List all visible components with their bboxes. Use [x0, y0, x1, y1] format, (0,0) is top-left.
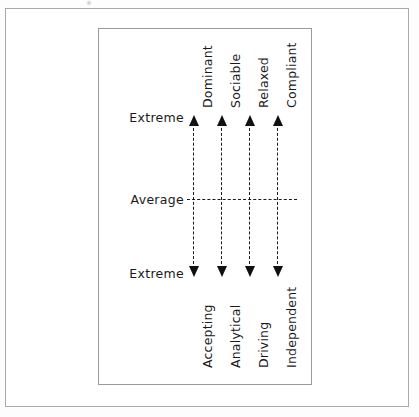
arrow-down-icon [273, 266, 283, 277]
arrow-down-icon [189, 266, 199, 277]
scale-label-extreme-top: Extreme [106, 110, 184, 125]
pole-label-top-compliance: Compliant [284, 42, 299, 108]
arrow-down-icon [245, 266, 255, 277]
axis-dashed-line [277, 123, 278, 269]
scan-artifact [86, 0, 92, 6]
continuum-axis-dominance [185, 117, 203, 275]
pole-label-bottom-dominance: Accepting [200, 304, 215, 368]
diagram-canvas: Extreme Average Extreme Dominant Accepti… [0, 0, 419, 417]
scale-label-average: Average [106, 192, 184, 207]
pole-label-bottom-relaxation: Driving [256, 322, 271, 368]
continuum-axis-compliance [269, 117, 287, 275]
pole-label-bottom-compliance: Independent [284, 287, 299, 368]
scale-label-extreme-bottom: Extreme [106, 266, 184, 281]
continuum-axis-relaxation [241, 117, 259, 275]
arrow-down-icon [217, 266, 227, 277]
pole-label-top-dominance: Dominant [200, 45, 215, 108]
axis-dashed-line [221, 123, 222, 269]
pole-label-top-sociability: Sociable [228, 54, 243, 108]
axis-dashed-line [249, 123, 250, 269]
pole-label-top-relaxation: Relaxed [256, 57, 271, 108]
continuum-axis-sociability [213, 117, 231, 275]
axis-dashed-line [193, 123, 194, 269]
pole-label-bottom-sociability: Analytical [228, 305, 243, 368]
